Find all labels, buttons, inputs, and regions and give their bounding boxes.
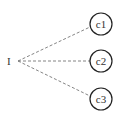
- node-c2: c2: [90, 50, 112, 72]
- node-c3-label: c3: [96, 93, 107, 105]
- node-c3: c3: [90, 88, 112, 110]
- edge-root-c1: [18, 27, 90, 61]
- node-c1: c1: [90, 13, 112, 35]
- edges: [18, 27, 90, 96]
- tree-diagram: I c1 c2 c3: [0, 0, 124, 118]
- node-c1-label: c1: [96, 18, 106, 30]
- edge-root-c3: [18, 61, 90, 96]
- node-c2-label: c2: [96, 55, 106, 67]
- root-label: I: [7, 55, 11, 67]
